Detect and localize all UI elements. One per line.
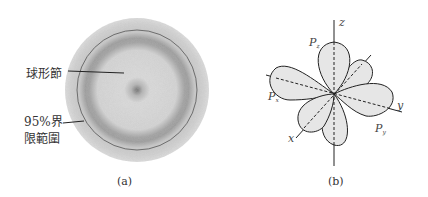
orbital-figure: 球形節 95%界 限範圍 (a) z y x Pz Px Py [0, 0, 428, 197]
caption-b: (b) [328, 175, 344, 188]
pz-label: Pz [308, 36, 320, 49]
spherical-node-label: 球形節 [26, 66, 62, 81]
boundary-label-line1: 95%界 [24, 115, 63, 129]
boundary-label-line2: 限範圍 [24, 131, 60, 146]
x-axis-label: x [288, 132, 295, 145]
py-label: Py [374, 122, 386, 136]
electron-cloud [65, 18, 209, 162]
p-orbitals-diagram: z y x Pz Px Py (b) [266, 16, 404, 188]
y-axis-label: y [396, 99, 404, 112]
s-orbital-diagram: 球形節 95%界 限範圍 (a) [24, 18, 209, 188]
z-axis-label: z [338, 16, 345, 29]
caption-a: (a) [117, 175, 132, 188]
